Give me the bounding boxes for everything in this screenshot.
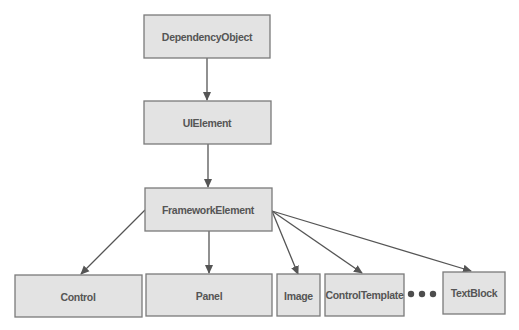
node-control: Control [15, 275, 142, 317]
node-frameworkelement: FrameworkElement [145, 188, 272, 231]
ellipsis-dot [408, 291, 414, 297]
node-image: Image [277, 274, 320, 316]
ellipsis-dot [430, 291, 436, 297]
node-label: TextBlock [451, 287, 498, 299]
node-label: Panel [196, 290, 223, 302]
node-label: Control [60, 291, 96, 303]
edge-frameworkelement-control [81, 210, 145, 274]
node-label: ControlTemplate [325, 289, 404, 301]
node-panel: Panel [146, 274, 272, 316]
node-label: UIElement [183, 117, 232, 129]
node-controltemplate: ControlTemplate [325, 274, 404, 316]
ellipsis-dot [419, 291, 425, 297]
edges [81, 58, 471, 274]
node-label: DependencyObject [162, 31, 253, 43]
node-uielement: UIElement [144, 101, 271, 144]
node-textblock: TextBlock [443, 272, 505, 314]
node-label: Image [284, 290, 313, 302]
node-label: FrameworkElement [162, 204, 255, 216]
class-hierarchy-diagram: DependencyObject UIElement FrameworkElem… [0, 0, 519, 330]
node-dependencyobject: DependencyObject [144, 15, 270, 58]
ellipsis-dots [408, 291, 436, 297]
edge-frameworkelement-textblock [272, 211, 471, 271]
edge-frameworkelement-controltemplate [272, 211, 362, 273]
